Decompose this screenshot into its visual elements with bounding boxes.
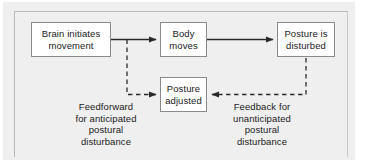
node-brain-initiates-movement: Brain initiates movement [31, 22, 111, 57]
flow-diagram-figure: Brain initiates movement Body moves Post… [0, 0, 367, 162]
connector-feedforward-branch [127, 40, 156, 95]
node-posture-is-disturbed: Posture is disturbed [277, 22, 335, 57]
node-body-moves: Body moves [160, 22, 207, 57]
caption-feedback: Feedback for unanticipated postural dist… [210, 101, 314, 147]
caption-feedforward: Feedforward for anticipated postural dis… [56, 101, 156, 147]
node-posture-adjusted: Posture adjusted [160, 77, 207, 112]
connector-feedback-loop [212, 58, 306, 95]
